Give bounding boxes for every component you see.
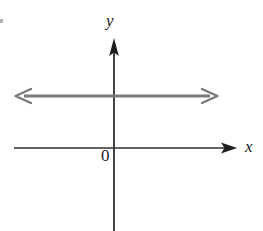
graph-canvas (0, 0, 263, 231)
x-axis (14, 143, 237, 154)
horizontal-line-series (16, 89, 218, 103)
y-axis-label: y (106, 12, 114, 29)
origin-label: 0 (101, 147, 110, 164)
x-axis-label: x (245, 138, 253, 155)
y-axis (109, 38, 119, 231)
scan-artifact-speck (0, 19, 3, 23)
coordinate-plane-figure: y x 0 (0, 0, 263, 231)
